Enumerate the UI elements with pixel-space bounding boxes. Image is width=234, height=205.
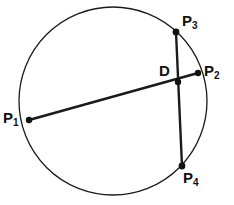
- label-p3: P3: [182, 13, 198, 28]
- label-d: D: [159, 63, 170, 78]
- label-p4-subscript: 4: [193, 177, 199, 188]
- label-p2: P2: [204, 63, 220, 78]
- chord-p3-p4: [176, 32, 182, 166]
- point-p1-marker: [26, 117, 32, 123]
- label-p1-base: P: [3, 109, 13, 126]
- label-p4: P4: [183, 170, 199, 185]
- label-p2-base: P: [204, 62, 214, 79]
- label-p1-subscript: 1: [13, 117, 19, 128]
- label-d-base: D: [159, 62, 170, 79]
- label-p2-subscript: 2: [214, 70, 220, 81]
- label-p3-base: P: [182, 12, 192, 29]
- label-p3-subscript: 3: [192, 20, 198, 31]
- chord-p1-p2: [29, 73, 198, 120]
- point-p3-marker: [173, 29, 180, 36]
- point-d-marker: [175, 79, 181, 85]
- label-p4-base: P: [183, 169, 193, 186]
- point-p2-marker: [195, 70, 201, 76]
- geometry-canvas: [0, 0, 234, 205]
- geometry-figure: P1 P2 P3 P4 D: [0, 0, 234, 205]
- label-p1: P1: [3, 110, 19, 125]
